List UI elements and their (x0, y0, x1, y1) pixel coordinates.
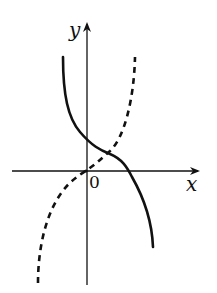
graph-svg (0, 0, 217, 293)
function-graph-diagram: y x 0 (0, 0, 217, 293)
origin-label: 0 (89, 174, 100, 191)
origin-point (84, 169, 87, 172)
y-axis-label: y (69, 20, 80, 40)
x-axis-label: x (186, 174, 197, 194)
